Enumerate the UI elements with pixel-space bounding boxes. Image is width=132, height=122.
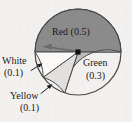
slice-label-yellow: Yellow [10,90,38,101]
slice-value-yellow: (0.1) [20,102,39,113]
slice-label-red: Red (0.5) [52,26,90,37]
spinner-pie-chart-figure: Red (0.5) Green (0.3) White (0.1) Yellow… [0,0,132,122]
slice-value-white: (0.1) [4,67,23,78]
yellow-callout-line [41,87,49,94]
slice-value-green: (0.3) [86,70,105,81]
spinner-hub[interactable] [75,49,80,54]
slice-label-white: White [2,55,26,66]
slice-label-green: Green [83,57,107,68]
